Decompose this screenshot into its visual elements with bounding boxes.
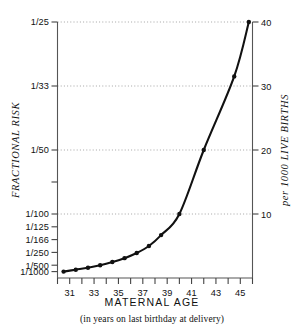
y-left-tick-label-1: 1/33 [31, 81, 49, 91]
gridlines [58, 22, 253, 214]
data-point-0 [61, 269, 65, 273]
data-point-8 [159, 233, 163, 237]
data-point-3 [98, 263, 102, 267]
data-point-12 [247, 20, 251, 24]
data-point-10 [202, 148, 206, 152]
y-left-tick-label-6: 1/166 [26, 235, 50, 245]
y-right-tick-label-40: 40 [261, 18, 271, 28]
y-left-tick-label-7: 1/250 [26, 248, 50, 258]
x-tick-label-43: 43 [211, 288, 221, 298]
data-point-9 [177, 212, 181, 216]
x-axis-title: MATERNAL AGE [105, 296, 200, 308]
y-right-tick-label-10: 10 [261, 210, 271, 220]
y-axis-right-tick-labels: 10203040 [261, 18, 271, 220]
y-axis-left-tick-labels: 1/251/331/501/1001/1251/1661/2501/5001/1… [20, 17, 49, 277]
y-axis-right-ticks [253, 22, 259, 214]
y-axis-right-title: per 1000 LIVE BIRTHS [279, 94, 290, 207]
chart-container: 3133353739414345 1/251/331/501/1001/1251… [0, 0, 298, 334]
data-point-6 [135, 251, 139, 255]
x-tick-label-31: 31 [64, 288, 74, 298]
y-axis-left-title: FRACTIONAL RISK [10, 102, 21, 199]
y-left-tick-label-9: 1/1000 [20, 267, 49, 277]
risk-vs-maternal-age-chart: 3133353739414345 1/251/331/501/1001/1251… [0, 0, 298, 334]
x-tick-label-45: 45 [235, 288, 245, 298]
data-point-4 [110, 260, 114, 264]
y-left-tick-label-0: 1/25 [31, 17, 49, 27]
y-left-tick-label-2: 1/50 [31, 145, 49, 155]
x-tick-label-33: 33 [89, 288, 99, 298]
data-point-11 [232, 74, 236, 78]
y-left-tick-label-4: 1/100 [26, 209, 50, 219]
y-axis-left-ticks [52, 22, 58, 272]
data-point-7 [147, 244, 151, 248]
y-right-tick-label-20: 20 [261, 146, 271, 156]
data-point-1 [74, 267, 78, 271]
y-left-tick-label-5: 1/125 [26, 222, 50, 232]
y-right-tick-label-30: 30 [261, 82, 271, 92]
data-point-2 [86, 266, 90, 270]
series-line-risk [64, 22, 249, 272]
x-axis-subtitle: (in years on last birthday at delivery) [80, 314, 224, 325]
x-axis-ticks [58, 278, 253, 284]
data-point-5 [122, 256, 126, 260]
data-series [64, 22, 249, 272]
data-points [61, 20, 251, 274]
